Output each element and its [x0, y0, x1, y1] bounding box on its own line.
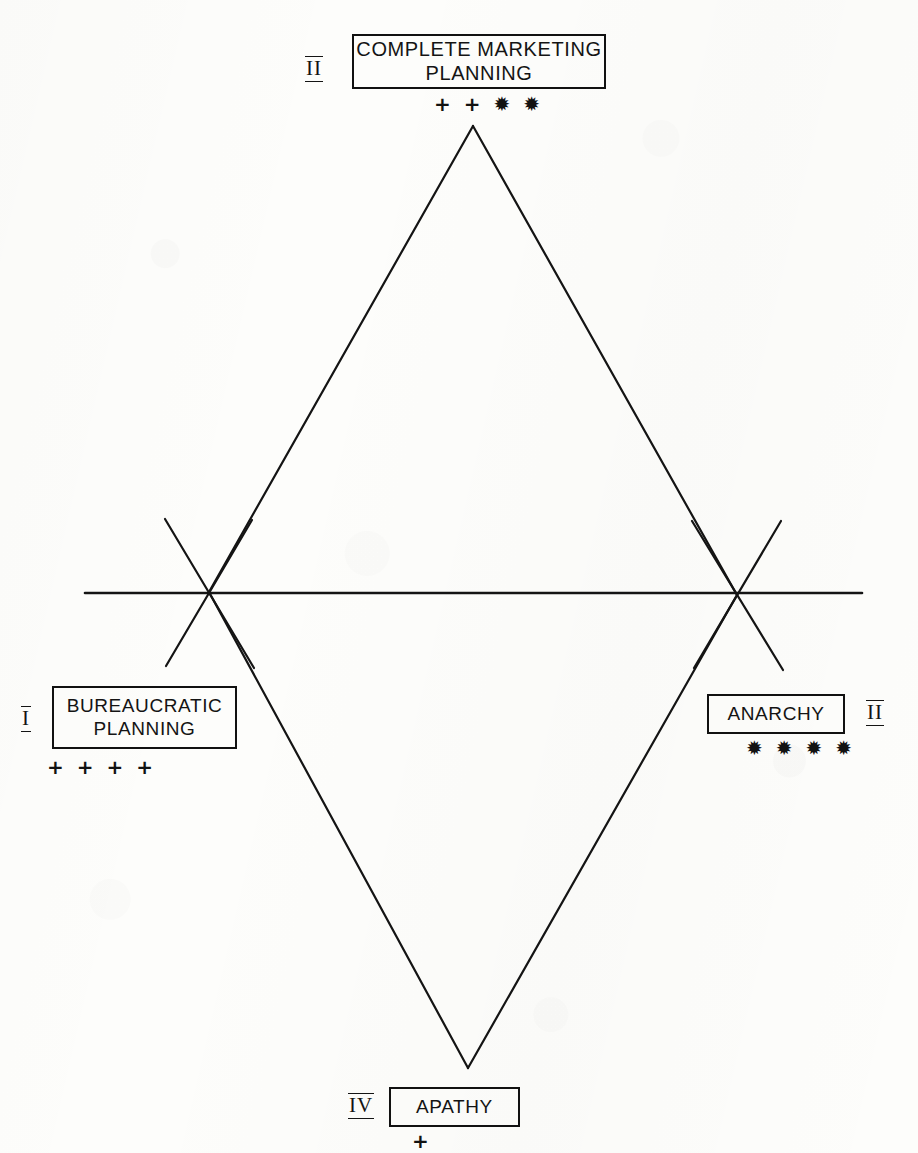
rating-symbols-anarchy: ✹ ✹ ✹ ✹ [746, 738, 855, 758]
node-anarchy[interactable]: ANARCHY [707, 694, 845, 734]
diagram-page: II COMPLETE MARKETING PLANNING + + ✹ ✹ I… [0, 0, 918, 1153]
diagram-linework [0, 0, 918, 1153]
rating-symbols-marketing: + + ✹ ✹ [434, 94, 543, 114]
node-label-line-2: PLANNING [425, 62, 532, 86]
quadrant-numeral-bureaucratic: I [21, 706, 31, 732]
diamond-edge-top-right [473, 126, 737, 595]
node-label-line-1: COMPLETE MARKETING [356, 38, 601, 62]
node-apathy[interactable]: APATHY [389, 1087, 520, 1127]
rating-symbols-apathy: + [412, 1131, 432, 1151]
quadrant-numeral-anarchy: II [866, 700, 884, 726]
diamond-edge-left-top [209, 126, 473, 592]
rating-symbols-bureaucratic: + + + + [47, 757, 156, 777]
node-label-line-1: ANARCHY [727, 703, 824, 725]
node-label-line-1: APATHY [416, 1096, 493, 1118]
quadrant-numeral-apathy: IV [348, 1093, 374, 1119]
diamond-edge-right-bottom [468, 595, 737, 1068]
node-label-line-1: BUREAUCRATIC [67, 695, 223, 717]
node-label-line-2: PLANNING [94, 718, 196, 740]
quadrant-numeral-marketing: II [305, 56, 323, 82]
node-complete-marketing-planning[interactable]: COMPLETE MARKETING PLANNING [352, 34, 606, 89]
node-bureaucratic-planning[interactable]: BUREAUCRATIC PLANNING [52, 686, 237, 749]
diamond-edge-bottom-left [209, 592, 468, 1068]
